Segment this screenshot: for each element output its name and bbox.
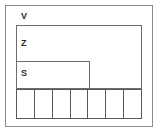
diagram-canvas: V Z S [0, 0, 160, 134]
cell [71, 90, 89, 118]
cell [35, 90, 53, 118]
region-label-v: V [21, 12, 27, 21]
region-inner-s [16, 61, 90, 89]
bottom-cell-row [16, 89, 142, 119]
cell [124, 90, 141, 118]
region-label-s: S [21, 69, 27, 78]
region-label-z: Z [21, 39, 27, 48]
cell [88, 90, 106, 118]
cell [17, 90, 35, 118]
cell [53, 90, 71, 118]
cell [106, 90, 124, 118]
